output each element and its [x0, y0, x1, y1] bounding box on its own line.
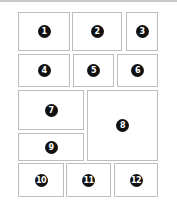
- panel-number-badge: 6: [131, 64, 144, 77]
- panel-number-badge: 7: [45, 104, 58, 117]
- panel-4: 4: [18, 54, 70, 87]
- panel-number-badge: 4: [38, 64, 51, 77]
- panel-10: 10: [18, 163, 64, 197]
- panel-7: 7: [18, 90, 84, 130]
- panel-3: 3: [126, 12, 158, 51]
- panel-number-badge: 3: [136, 25, 149, 38]
- panel-11: 11: [66, 163, 111, 197]
- top-divider: [0, 0, 177, 2]
- panel-2: 2: [72, 12, 122, 51]
- panel-6: 6: [117, 54, 158, 87]
- panel-number-badge: 9: [45, 141, 58, 154]
- panel-5: 5: [73, 54, 114, 87]
- panel-number-badge: 1: [38, 25, 51, 38]
- panel-number-badge: 5: [87, 64, 100, 77]
- panel-9: 9: [18, 133, 84, 161]
- panel-number-badge: 11: [82, 174, 95, 187]
- panel-number-badge: 8: [116, 119, 129, 132]
- panel-8: 8: [87, 90, 158, 161]
- panel-number-badge: 2: [91, 25, 104, 38]
- panel-number-badge: 12: [130, 174, 143, 187]
- panel-1: 1: [18, 12, 70, 51]
- panel-number-badge: 10: [35, 174, 48, 187]
- panel-12: 12: [114, 163, 158, 197]
